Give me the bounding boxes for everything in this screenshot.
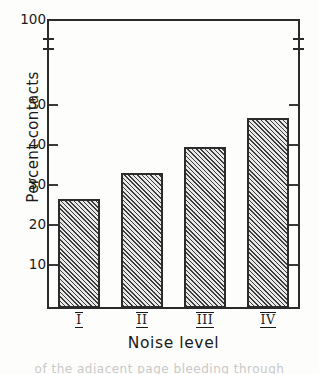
bar-II <box>121 173 163 308</box>
x-axis-tick-labels: I II III IV <box>47 312 300 332</box>
y-tick-label-20: 20 <box>16 218 46 232</box>
bar-IV <box>247 118 289 308</box>
plot-area <box>47 19 300 309</box>
y-axis-tick-labels: 100 50 40 30 20 10 <box>14 0 46 374</box>
y-tick-label-40: 40 <box>16 138 46 152</box>
chart-figure: Percent contacts 100 50 40 30 20 10 <box>0 0 319 374</box>
y-tick-label-100: 100 <box>16 13 46 27</box>
y-tick-label-50: 50 <box>16 98 46 112</box>
bar-series <box>47 19 300 309</box>
x-tick-label-4: IV <box>248 312 288 328</box>
y-tick-label-10: 10 <box>16 258 46 272</box>
y-tick-label-30: 30 <box>16 178 46 192</box>
x-tick-label-2: II <box>122 312 162 328</box>
bar-III <box>184 147 226 308</box>
x-tick-label-3: III <box>185 312 225 328</box>
bar-I <box>58 199 100 308</box>
page-bleed-artifact: of the adjacent page bleeding through <box>0 362 319 374</box>
x-axis-title: Noise level <box>47 334 300 352</box>
x-tick-label-1: I <box>59 312 99 328</box>
